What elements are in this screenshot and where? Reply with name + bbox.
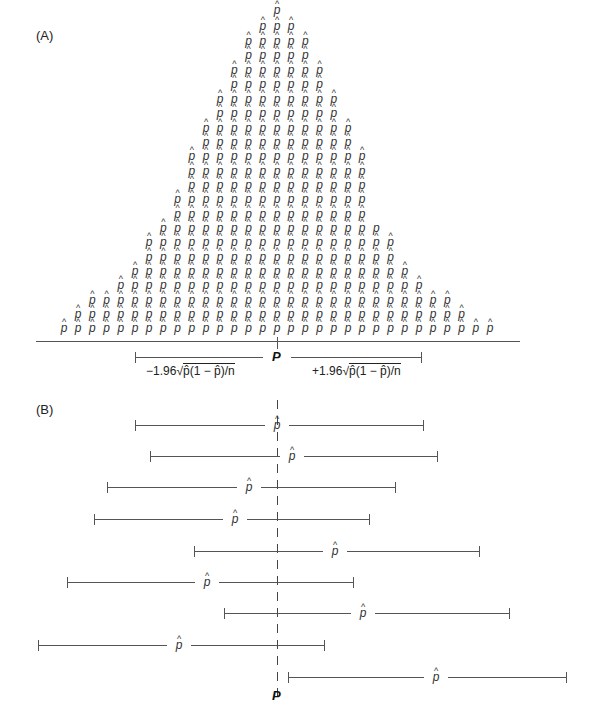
hat-icon: ^ (144, 273, 154, 285)
hat-icon: ^ (300, 187, 310, 199)
hat-icon: ^ (357, 230, 367, 242)
hat-icon: ^ (286, 187, 296, 199)
hat-icon: ^ (300, 101, 310, 113)
hat-icon: ^ (386, 259, 396, 271)
hat-icon: ^ (244, 144, 254, 156)
hat-icon: ^ (258, 130, 268, 142)
p-hat: p^ (102, 322, 112, 334)
dash-segment (277, 400, 278, 409)
hat-icon: ^ (272, 0, 282, 10)
hat-icon: ^ (371, 288, 381, 300)
hat-icon: ^ (244, 87, 254, 99)
hat-icon: ^ (258, 72, 268, 84)
hat-icon: ^ (187, 187, 197, 199)
interval-line (150, 456, 280, 457)
hat-icon: ^ (229, 58, 239, 70)
hat-icon: ^ (158, 245, 168, 257)
hat-icon: ^ (130, 316, 140, 328)
hat-icon: ^ (343, 159, 353, 171)
hat-icon: ^ (471, 316, 481, 328)
interval-end-cap (324, 640, 325, 651)
hat-icon: ^ (244, 475, 254, 487)
hat-icon: ^ (286, 173, 296, 185)
hat-icon: ^ (414, 316, 424, 328)
hat-icon: ^ (286, 159, 296, 171)
hat-icon: ^ (258, 87, 268, 99)
hat-icon: ^ (457, 302, 467, 314)
sqrt-icon: √ (342, 364, 349, 378)
hat-icon: ^ (343, 130, 353, 142)
sample-p-hat: p^ (230, 513, 240, 525)
hat-icon: ^ (187, 316, 197, 328)
hat-icon: ^ (258, 29, 268, 41)
hat-icon: ^ (244, 216, 254, 228)
hat-icon: ^ (343, 187, 353, 199)
hat-icon: ^ (244, 302, 254, 314)
hat-icon: ^ (201, 159, 211, 171)
hat-icon: ^ (357, 302, 367, 314)
hat-icon: ^ (414, 302, 424, 314)
hat-icon: ^ (173, 230, 183, 242)
p-hat: p^ (315, 322, 325, 334)
hat-icon: ^ (286, 302, 296, 314)
hat-icon: ^ (215, 187, 225, 199)
panel-a-label: (A) (36, 28, 53, 43)
hat-icon: ^ (286, 202, 296, 214)
hat-icon: ^ (201, 288, 211, 300)
hat-icon: ^ (244, 29, 254, 41)
hat-icon: ^ (187, 259, 197, 271)
hat-icon: ^ (229, 245, 239, 257)
hat-icon: ^ (329, 101, 339, 113)
sample-p-hat: p^ (431, 671, 441, 683)
hat-icon: ^ (300, 43, 310, 55)
hat-icon: ^ (215, 116, 225, 128)
hat-icon: ^ (300, 116, 310, 128)
p-hat: p^ (329, 322, 339, 334)
hat-icon: ^ (187, 202, 197, 214)
hat-icon: ^ (87, 302, 97, 314)
hat-icon: ^ (371, 259, 381, 271)
hat-icon: ^ (442, 302, 452, 314)
hat-icon: ^ (173, 216, 183, 228)
x-axis (36, 341, 520, 342)
interval-line (291, 357, 421, 358)
hat-icon: ^ (371, 245, 381, 257)
hat-icon: ^ (457, 316, 467, 328)
hat-icon: ^ (215, 245, 225, 257)
hat-icon: ^ (173, 288, 183, 300)
hat-icon: ^ (244, 245, 254, 257)
hat-icon: ^ (258, 202, 268, 214)
true-p-tick (277, 337, 278, 349)
hat-icon: ^ (229, 302, 239, 314)
hat-icon: ^ (300, 302, 310, 314)
interval-end-cap (437, 451, 438, 462)
interval-end-cap (67, 577, 68, 588)
hat-icon: ^ (215, 130, 225, 142)
lower-bound-formula: −1.96√p̂(1 − p̂)/n (146, 364, 235, 378)
hat-icon: ^ (244, 259, 254, 271)
interval-end-cap (509, 608, 510, 619)
p-hat: p^ (229, 322, 239, 334)
hat-icon: ^ (315, 87, 325, 99)
hat-icon: ^ (201, 302, 211, 314)
p-hat: p^ (286, 322, 296, 334)
hat-icon: ^ (315, 130, 325, 142)
hat-icon: ^ (272, 29, 282, 41)
p-hat: p^ (59, 322, 69, 334)
hat-icon: ^ (215, 216, 225, 228)
dash-segment (277, 656, 278, 665)
hat-icon: ^ (287, 444, 297, 456)
hat-icon: ^ (187, 173, 197, 185)
hat-icon: ^ (357, 273, 367, 285)
sample-p-hat: p^ (287, 450, 297, 462)
interval-end-cap (135, 420, 136, 431)
interval-line (247, 519, 369, 520)
hat-icon: ^ (357, 288, 367, 300)
hat-icon: ^ (174, 633, 184, 645)
hat-icon: ^ (272, 230, 282, 242)
p-hat: p^ (428, 322, 438, 334)
p-hat: p^ (272, 322, 282, 334)
hat-icon: ^ (400, 302, 410, 314)
hat-icon: ^ (158, 316, 168, 328)
hat-icon: ^ (201, 202, 211, 214)
